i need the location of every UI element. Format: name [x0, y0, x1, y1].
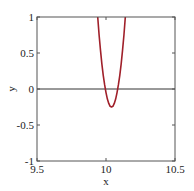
- series-line: [96, 0, 128, 107]
- x-axis-label: x: [103, 175, 109, 187]
- y-tick-label: -1: [25, 155, 34, 167]
- x-axis-ticks: 9.51010.5: [30, 17, 185, 175]
- x-tick-label: 10.5: [165, 163, 185, 175]
- x-tick-label: 10: [101, 163, 113, 175]
- y-tick-label: 0.5: [20, 47, 34, 59]
- data-series: [96, 0, 128, 107]
- y-axis-label: y: [5, 86, 17, 92]
- y-tick-label: 1: [29, 11, 35, 23]
- line-chart: 9.51010.5 -1-0.500.51 x y: [0, 0, 194, 191]
- y-tick-label: -0.5: [17, 119, 35, 131]
- y-tick-label: 0: [29, 83, 35, 95]
